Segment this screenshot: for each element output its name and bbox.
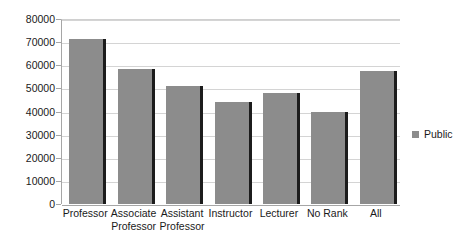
- legend-swatch-public: [412, 131, 419, 138]
- bar-public-lecturer[interactable]: [263, 93, 297, 204]
- x-tick-label: Assistant Professor: [158, 207, 206, 233]
- gridline: [62, 205, 400, 206]
- bar-slot: [69, 20, 103, 204]
- y-tick-label: 10000: [0, 176, 55, 187]
- bar-edge: [249, 102, 252, 204]
- bar-public-associate-professor[interactable]: [118, 69, 152, 204]
- x-axis: ProfessorAssociate ProfessorAssistant Pr…: [61, 207, 400, 252]
- bar-public-all[interactable]: [360, 71, 394, 204]
- bar-public-assistant-professor[interactable]: [166, 86, 200, 204]
- plot-area: [61, 19, 400, 204]
- bar-edge: [297, 93, 300, 204]
- y-tick-label: 40000: [0, 106, 55, 117]
- bar-slot: [360, 20, 394, 204]
- y-tick-label: 0: [0, 199, 55, 210]
- legend: Public: [412, 129, 453, 140]
- bar-slot: [311, 20, 345, 204]
- x-tick-label: Lecturer: [255, 207, 303, 220]
- bar-edge: [152, 69, 155, 204]
- bar-public-professor[interactable]: [69, 39, 103, 204]
- bar-slot: [166, 20, 200, 204]
- bar-chart: 0100002000030000400005000060000700008000…: [0, 0, 465, 252]
- bar-slot: [215, 20, 249, 204]
- bar-edge: [394, 71, 397, 204]
- x-tick-label: No Rank: [303, 207, 351, 220]
- x-tick-label: Professor: [61, 207, 109, 220]
- bar-public-instructor[interactable]: [215, 102, 249, 204]
- y-tick-label: 30000: [0, 129, 55, 140]
- y-tick-label: 70000: [0, 37, 55, 48]
- y-tick-label: 50000: [0, 83, 55, 94]
- bar-edge: [103, 39, 106, 204]
- x-tick-label: Instructor: [206, 207, 254, 220]
- x-tick-label: All: [352, 207, 400, 220]
- y-tick-label: 60000: [0, 60, 55, 71]
- y-tick-label: 80000: [0, 14, 55, 25]
- y-axis: 0100002000030000400005000060000700008000…: [0, 0, 55, 252]
- y-tick-mark: [56, 204, 61, 205]
- bar-edge: [345, 112, 348, 205]
- y-tick-label: 20000: [0, 153, 55, 164]
- bar-slot: [118, 20, 152, 204]
- x-tick-label: Associate Professor: [109, 207, 157, 233]
- bar-public-no-rank[interactable]: [311, 112, 345, 205]
- legend-label-public: Public: [424, 129, 453, 140]
- bar-slot: [263, 20, 297, 204]
- bar-edge: [200, 86, 203, 204]
